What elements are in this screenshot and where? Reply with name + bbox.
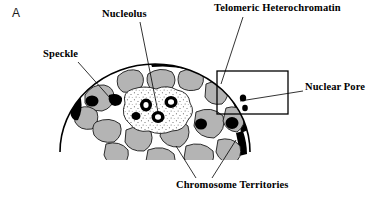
nuclear-pore-group: [240, 94, 248, 111]
panel-letter: A: [12, 6, 20, 20]
leader-line-telomeric: [221, 17, 243, 84]
chromosome-territory: [178, 69, 203, 90]
nuclear-pore: [242, 105, 248, 111]
speckle: [69, 92, 81, 121]
nucleolus-inclusion: [132, 112, 141, 120]
leader-line-nuclear-pore: [240, 91, 303, 101]
chromosome-territory: [146, 148, 175, 172]
nucleus-diagram-svg: [0, 0, 382, 202]
chromosome-territory: [93, 119, 121, 142]
label-telomeric-heterochromatin: Telomeric Heterochromatin: [214, 3, 341, 14]
nucleus-architecture-diagram: A Nucleolus Telomeric Heterochromatin Sp…: [0, 0, 382, 202]
speckle: [226, 117, 239, 129]
speckle: [195, 119, 207, 130]
label-chromosome-territories: Chromosome Territories: [176, 180, 289, 191]
label-nucleolus: Nucleolus: [102, 9, 147, 20]
speckle: [86, 96, 99, 107]
label-speckle: Speckle: [43, 49, 78, 60]
label-nuclear-pore: Nuclear Pore: [305, 82, 365, 93]
chromosome-territory: [104, 143, 128, 166]
